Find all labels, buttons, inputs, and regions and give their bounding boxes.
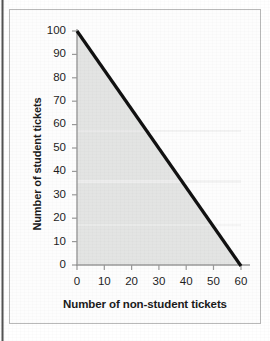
y-tick-label: 90 — [32, 48, 66, 60]
x-axis-title: Number of non-student tickets — [10, 298, 270, 310]
y-axis-ticks — [72, 31, 77, 265]
y-tick-label: 0 — [32, 259, 66, 271]
chart-plot: 100 90 80 70 60 50 40 30 20 10 0 0 10 20… — [10, 10, 260, 323]
x-tick-label: 20 — [117, 276, 147, 288]
x-tick-label: 60 — [226, 276, 256, 288]
x-tick-label: 10 — [89, 276, 119, 288]
x-tick-label: 40 — [171, 276, 201, 288]
x-tick-label: 50 — [199, 276, 229, 288]
scan-edge-artifact — [1, 0, 4, 341]
y-axis-title: Number of student tickets — [31, 74, 43, 254]
x-tick-label: 0 — [62, 276, 92, 288]
y-tick-label: 100 — [32, 25, 66, 37]
figure-box: 100 90 80 70 60 50 40 30 20 10 0 0 10 20… — [9, 9, 261, 324]
x-axis-ticks — [77, 265, 241, 270]
x-tick-label: 30 — [144, 276, 174, 288]
